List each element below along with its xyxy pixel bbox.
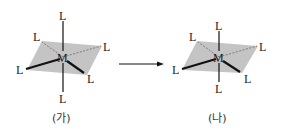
complex-right: M L L L L L L (나) [172, 19, 266, 125]
ligand-bottom: L [215, 82, 222, 96]
ligand-bottom: L [59, 92, 66, 106]
ligand-back-left: L [189, 30, 196, 44]
ligand-front-right: L [87, 72, 94, 86]
ligand-front-left: L [16, 63, 23, 77]
complex-left: M L L L L L L (가) [16, 9, 110, 125]
caption-na: (나) [208, 112, 227, 125]
ligand-front-left: L [172, 63, 179, 77]
metal-label: M [57, 51, 68, 65]
octahedral-complex-diagram: M L L L L L L (가) M L L L L L L (나) [0, 0, 283, 135]
ligand-back-left: L [33, 30, 40, 44]
metal-label: M [213, 51, 224, 65]
ligand-top: L [215, 19, 222, 33]
caption-ga: (가) [52, 112, 71, 125]
ligand-top: L [59, 9, 66, 23]
ligand-back-right: L [259, 40, 266, 54]
reaction-arrow [119, 62, 164, 67]
ligand-back-right: L [103, 40, 110, 54]
ligand-front-right: L [244, 72, 251, 86]
